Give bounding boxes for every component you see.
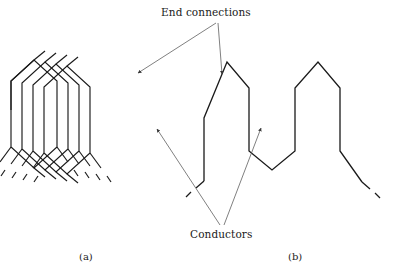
coil-top-lead-2 [45,53,56,62]
annotation-end-connections-leaders [138,23,222,74]
subfigure-b-dashed-continuations [186,192,380,198]
coil-top-lead-4 [67,57,78,66]
wave-lead-start [196,181,204,188]
wave-lead-end [362,182,370,189]
annotation-label-conductors: Conductors [190,228,252,240]
coil-bottom-lead-2 [45,170,56,179]
coil-lead-right-4 [90,153,101,168]
dash-left-4 [34,176,38,182]
subfigure-caption-a: (a) [79,251,93,262]
dash-left-2 [12,172,16,178]
coil-lead-left-1 [0,147,11,162]
subfigure-a-hexagonal-coil [0,51,101,183]
coil-top-lead-1 [34,51,45,60]
coil-bottom-lead-3 [56,172,67,181]
figure-canvas: End connections Conductors (a) (b) [0,0,399,276]
subfigure-caption-b: (b) [288,251,302,262]
coil-bottom-lead-4 [67,174,78,183]
annotation-conductors-leaders [157,128,261,225]
annotation-label-end-connections: End connections [161,6,251,18]
dash-right-3 [96,174,100,180]
leader-end-connections-left [138,23,216,73]
dash-right-1 [74,170,78,176]
leader-conductors-left [157,129,220,225]
coil-lead-right-1 [57,147,68,162]
dash-right-4 [107,176,111,182]
subfigure-b-wave-winding [196,62,370,189]
coil-lead-right-2 [68,149,79,164]
coil-bottom-lead-1 [34,168,45,177]
wave-coil-left [204,62,362,182]
leader-conductors-right [224,128,261,225]
dash-b-left [186,192,191,197]
dash-b-right [375,193,380,198]
dash-left-3 [23,174,27,180]
coil-lead-right-3 [79,151,90,166]
leader-end-connections-right [218,23,222,74]
coil-top-lead-3 [56,55,67,64]
dash-right-2 [85,172,89,178]
dash-left-1 [1,170,5,176]
